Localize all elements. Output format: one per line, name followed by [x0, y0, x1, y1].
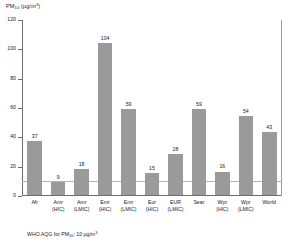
y-axis-tick-label: 120 — [7, 17, 16, 22]
y-axis-tick — [18, 20, 22, 21]
bar-slot: 104 — [93, 20, 116, 195]
bar — [98, 43, 113, 195]
x-axis-label-line1: EUR — [170, 199, 181, 205]
x-axis-label-line1: Afr — [31, 199, 38, 205]
bar-value-label: 104 — [101, 36, 110, 41]
x-axis-label-line2: (HIC) — [211, 206, 234, 213]
bar-slot: 15 — [140, 20, 163, 195]
bar-slot: 59 — [187, 20, 210, 195]
y-axis-tick — [18, 79, 22, 80]
bar-value-label: 28 — [173, 147, 179, 152]
bar-slot: 9 — [46, 20, 69, 195]
bar-slot: 16 — [211, 20, 234, 195]
y-axis-tick — [18, 167, 22, 168]
x-axis-label: Amr(LMIC) — [70, 199, 93, 213]
bar-slot: 18 — [70, 20, 93, 195]
bar-value-label: 9 — [57, 175, 60, 180]
y-axis-tick — [18, 108, 22, 109]
x-axis-label: Emr(HIC) — [93, 199, 116, 213]
y-axis-title-subscript: 10 — [15, 5, 20, 10]
footnote-suffix: : 10 µg/m — [73, 231, 95, 237]
x-axis-label-line1: World — [263, 199, 276, 205]
x-axis-label: Wpr(HIC) — [211, 199, 234, 213]
footnote-prefix: WHO AQG for PM — [27, 231, 69, 237]
x-axis-label: Wpr(LMIC) — [234, 199, 257, 213]
x-axis-label-line1: Wpr — [218, 199, 228, 205]
bar — [74, 169, 89, 195]
x-axis-label: World — [258, 199, 281, 213]
x-axis-label-line1: Emr — [100, 199, 110, 205]
x-axis-label-line2: (HIC) — [140, 206, 163, 213]
x-axis-label-line2: (LMIC) — [164, 206, 187, 213]
plot-right-border — [281, 20, 282, 196]
bar — [168, 154, 183, 195]
pm10-bar-chart: PM10 (µg/m3) 020406080100120 37918104591… — [0, 0, 292, 248]
y-axis-title-superscript: 3 — [36, 2, 38, 7]
y-axis-tick-label: 40 — [10, 135, 16, 140]
y-axis-title-close: ) — [38, 3, 40, 9]
bar-value-label: 59 — [126, 102, 132, 107]
x-axis-label: Emr(LMIC) — [117, 199, 140, 213]
x-axis-label-line1: Amr — [77, 199, 87, 205]
bar-slot: 37 — [23, 20, 46, 195]
bar-slot: 43 — [258, 20, 281, 195]
bar-slot: 54 — [234, 20, 257, 195]
x-axis-label-line2: (LMIC) — [234, 206, 257, 213]
bar-value-label: 54 — [243, 109, 249, 114]
x-axis-label-line1: Emr — [124, 199, 134, 205]
x-axis-line — [22, 195, 282, 196]
y-axis-tick — [18, 196, 22, 197]
y-axis-tick-label: 20 — [10, 164, 16, 169]
y-axis-title-unit: (µg/m — [19, 3, 36, 9]
y-axis-title: PM10 (µg/m3) — [6, 3, 40, 10]
bar-value-label: 18 — [79, 162, 85, 167]
x-axis-label-line2: (HIC) — [93, 206, 116, 213]
x-axis-label-line1: Wpr — [241, 199, 251, 205]
x-axis-label-line1: Sear — [193, 199, 204, 205]
x-axis-label: Eur(HIC) — [140, 199, 163, 213]
bar — [215, 172, 230, 195]
x-axis-label: Sear — [187, 199, 210, 213]
x-axis-label: EUR(LMIC) — [164, 199, 187, 213]
bar — [145, 173, 160, 195]
x-axis-label-line1: Eur — [148, 199, 156, 205]
y-axis-tick — [18, 49, 22, 50]
x-axis-label: Afr — [23, 199, 46, 213]
footnote-subscript: 10 — [69, 233, 73, 238]
bar — [262, 132, 277, 195]
footnote-superscript: 3 — [95, 230, 97, 235]
bar — [239, 116, 254, 195]
x-axis-label-line1: Amr — [53, 199, 63, 205]
bar-value-label: 37 — [32, 134, 38, 139]
bar-value-label: 15 — [149, 166, 155, 171]
bar-value-label: 43 — [266, 125, 272, 130]
bar-slot: 28 — [164, 20, 187, 195]
bar — [27, 141, 42, 195]
y-axis-tick-label: 0 — [13, 193, 16, 198]
y-axis-title-main: PM — [6, 3, 15, 9]
bar-value-label: 16 — [219, 164, 225, 169]
y-axis-tick-label: 80 — [10, 76, 16, 81]
footnote: WHO AQG for PM10: 10 µg/m3 — [27, 231, 97, 238]
y-axis-tick-label: 100 — [7, 47, 16, 52]
y-axis-tick — [18, 137, 22, 138]
bar-slot: 59 — [117, 20, 140, 195]
bar — [51, 182, 66, 195]
x-axis-label: Amr(HIC) — [46, 199, 69, 213]
x-axis-label-line2: (LMIC) — [117, 206, 140, 213]
bar-value-label: 59 — [196, 102, 202, 107]
bar — [192, 109, 207, 195]
x-axis-label-line2: (HIC) — [46, 206, 69, 213]
bar — [121, 109, 136, 195]
x-axis-label-line2: (LMIC) — [70, 206, 93, 213]
bar-series: 3791810459152859165443 — [23, 20, 281, 195]
y-axis-tick-label: 60 — [10, 105, 16, 110]
plot-area: 020406080100120 3791810459152859165443 — [22, 20, 282, 196]
x-axis-labels: AfrAmr(HIC)Amr(LMIC)Emr(HIC)Emr(LMIC)Eur… — [23, 199, 281, 213]
